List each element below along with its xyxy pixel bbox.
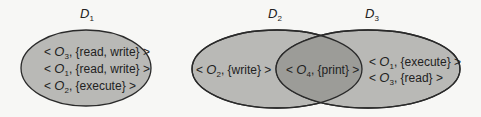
domain-d2-label: D2: [268, 6, 282, 23]
domain-d3-label: D3: [365, 6, 379, 23]
d1-entry: < O2, {execute} >: [44, 79, 136, 98]
domain-d1-label: D1: [80, 6, 94, 23]
shared-entry: < O4, {print} >: [286, 63, 359, 82]
d2-entry: < O2, {write} >: [196, 63, 271, 82]
d3-entry: < O3, {read} >: [369, 71, 443, 90]
